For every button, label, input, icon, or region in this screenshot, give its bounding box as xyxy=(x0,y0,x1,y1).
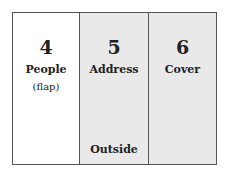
panel-bottom-label: Outside xyxy=(80,143,148,156)
panel-number: 6 xyxy=(149,38,216,57)
panel-number: 4 xyxy=(13,38,79,57)
panel-5: 5 Address Outside xyxy=(80,13,149,164)
panel-label: Cover xyxy=(149,63,216,76)
panel-label: People xyxy=(13,63,79,76)
brochure-layout: 4 People (flap) 5 Address Outside 6 Cove… xyxy=(12,12,217,165)
panel-4: 4 People (flap) xyxy=(13,13,80,164)
panel-number: 5 xyxy=(80,38,148,57)
panel-6: 6 Cover xyxy=(149,13,216,164)
panel-label: Address xyxy=(80,63,148,76)
panel-sublabel: (flap) xyxy=(13,81,79,92)
